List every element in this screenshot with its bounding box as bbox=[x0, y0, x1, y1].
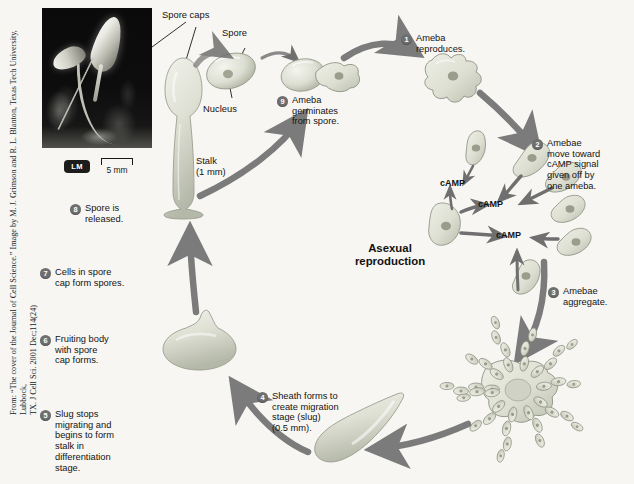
arrow-mound-to-fruiting-body bbox=[190, 232, 196, 312]
spore-nucleus bbox=[223, 70, 233, 78]
label-camp-2: cAMP bbox=[478, 199, 503, 210]
step-9-text: Ameba germinates from spore. bbox=[292, 95, 339, 127]
step-6-number: 6 bbox=[40, 335, 51, 346]
label-nucleus: Nucleus bbox=[203, 104, 237, 115]
germinating-ameba bbox=[279, 55, 360, 94]
step-5-number: 5 bbox=[40, 410, 51, 421]
step-4-number: 4 bbox=[257, 392, 268, 403]
step-1-number: 1 bbox=[401, 34, 412, 45]
step-3: 3 Amebae aggregate. bbox=[548, 286, 630, 307]
label-camp-1: cAMP bbox=[440, 178, 465, 189]
step-8-number: 8 bbox=[70, 204, 81, 215]
label-stalk: Stalk (1 mm) bbox=[196, 156, 226, 178]
step-8-text: Spore is released. bbox=[85, 203, 123, 224]
label-camp-3: cAMP bbox=[496, 230, 521, 241]
step-3-text: Amebae aggregate. bbox=[563, 286, 607, 307]
center-title: Asexual reproduction bbox=[330, 242, 450, 268]
ameba-reproducing bbox=[425, 54, 481, 102]
step-4-text: Sheath forms to create migration stage (… bbox=[272, 391, 339, 434]
step-2-text: Amebae move toward cAMP signal given off… bbox=[547, 138, 600, 192]
mound-early-fruiting-body bbox=[163, 310, 236, 370]
step-9: 9 Ameba germinates from spore. bbox=[277, 95, 363, 127]
aggregate-center bbox=[505, 379, 531, 401]
arrow-aggregate-to-slug bbox=[375, 424, 468, 449]
step-4: 4 Sheath forms to create migration stage… bbox=[257, 391, 362, 434]
label-spore: Spore bbox=[222, 28, 247, 39]
arrow-reproduction-to-chemotaxis bbox=[480, 93, 536, 150]
arrow-spore-to-germinating bbox=[262, 53, 297, 60]
step-1-text: Ameba reproduces. bbox=[416, 33, 465, 54]
figure-canvas: From: “The cover of the Journal of Cell … bbox=[0, 0, 634, 484]
step-1: 1 Ameba reproduces. bbox=[401, 33, 487, 54]
step-5: 5 Slug stops migrating and begins to for… bbox=[40, 409, 132, 473]
step-6-text: Fruiting body with spore cap forms. bbox=[55, 334, 109, 366]
step-7: 7 Cells in spore cap form spores. bbox=[40, 267, 150, 288]
step-2: 2 Amebae move toward cAMP signal given o… bbox=[532, 138, 630, 192]
step-6: 6 Fruiting body with spore cap forms. bbox=[40, 334, 132, 366]
step-7-text: Cells in spore cap form spores. bbox=[55, 267, 124, 288]
step-5-text: Slug stops migrating and begins to form … bbox=[55, 409, 114, 473]
step-7-number: 7 bbox=[40, 268, 51, 279]
label-spore-caps: Spore caps bbox=[162, 10, 209, 21]
step-2-number: 2 bbox=[532, 139, 543, 150]
step-9-number: 9 bbox=[277, 96, 288, 107]
step-8: 8 Spore is released. bbox=[70, 203, 156, 224]
step-3-number: 3 bbox=[548, 287, 559, 298]
